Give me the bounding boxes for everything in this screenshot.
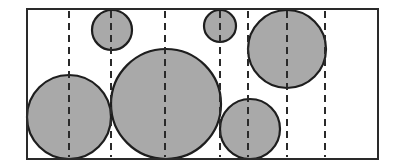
circles-group	[27, 10, 326, 159]
circle-bottom-right	[220, 99, 280, 159]
circle-packing-diagram	[0, 0, 404, 167]
